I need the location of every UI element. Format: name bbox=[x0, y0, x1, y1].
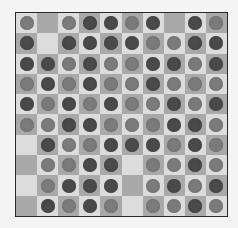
medium-piece[interactable] bbox=[167, 36, 181, 50]
board-cell[interactable] bbox=[58, 196, 79, 216]
dark-piece[interactable] bbox=[62, 118, 76, 132]
board-cell[interactable] bbox=[122, 33, 143, 53]
board-cell[interactable] bbox=[100, 114, 121, 134]
board-cell[interactable] bbox=[206, 135, 227, 155]
medium-piece[interactable] bbox=[125, 57, 139, 71]
board-cell[interactable] bbox=[164, 54, 185, 74]
board-cell[interactable] bbox=[143, 135, 164, 155]
medium-piece[interactable] bbox=[62, 77, 76, 91]
board-cell[interactable] bbox=[37, 74, 58, 94]
board-cell[interactable] bbox=[143, 54, 164, 74]
medium-piece[interactable] bbox=[41, 97, 55, 111]
board-cell[interactable] bbox=[100, 74, 121, 94]
dark-piece[interactable] bbox=[104, 158, 118, 172]
board-cell[interactable] bbox=[122, 94, 143, 114]
dark-piece[interactable] bbox=[83, 57, 97, 71]
dark-piece[interactable] bbox=[83, 158, 97, 172]
dark-piece[interactable] bbox=[167, 179, 181, 193]
medium-piece[interactable] bbox=[209, 138, 223, 152]
board-cell[interactable] bbox=[16, 175, 37, 195]
medium-piece[interactable] bbox=[146, 158, 160, 172]
board-cell[interactable] bbox=[122, 54, 143, 74]
board-cell[interactable] bbox=[16, 94, 37, 114]
dark-piece[interactable] bbox=[188, 138, 202, 152]
board-cell[interactable] bbox=[185, 135, 206, 155]
board-cell[interactable] bbox=[206, 196, 227, 216]
medium-piece[interactable] bbox=[167, 199, 181, 213]
board-cell[interactable] bbox=[58, 54, 79, 74]
board-cell[interactable] bbox=[164, 175, 185, 195]
board-cell[interactable] bbox=[58, 155, 79, 175]
board-cell[interactable] bbox=[185, 155, 206, 175]
board-cell[interactable] bbox=[16, 13, 37, 33]
medium-piece[interactable] bbox=[146, 118, 160, 132]
board-cell[interactable] bbox=[122, 155, 143, 175]
dark-piece[interactable] bbox=[83, 118, 97, 132]
medium-piece[interactable] bbox=[62, 199, 76, 213]
board-cell[interactable] bbox=[164, 155, 185, 175]
board-cell[interactable] bbox=[164, 94, 185, 114]
board-cell[interactable] bbox=[79, 135, 100, 155]
medium-piece[interactable] bbox=[104, 118, 118, 132]
board-cell[interactable] bbox=[164, 74, 185, 94]
board-cell[interactable] bbox=[143, 114, 164, 134]
board-cell[interactable] bbox=[206, 54, 227, 74]
medium-piece[interactable] bbox=[62, 57, 76, 71]
board-cell[interactable] bbox=[79, 196, 100, 216]
board-cell[interactable] bbox=[58, 135, 79, 155]
medium-piece[interactable] bbox=[209, 199, 223, 213]
medium-piece[interactable] bbox=[167, 158, 181, 172]
board-cell[interactable] bbox=[79, 33, 100, 53]
dark-piece[interactable] bbox=[62, 97, 76, 111]
board-cell[interactable] bbox=[143, 175, 164, 195]
medium-piece[interactable] bbox=[83, 138, 97, 152]
medium-piece[interactable] bbox=[188, 57, 202, 71]
dark-piece[interactable] bbox=[83, 16, 97, 30]
board-cell[interactable] bbox=[206, 155, 227, 175]
board-cell[interactable] bbox=[16, 196, 37, 216]
dark-piece[interactable] bbox=[104, 138, 118, 152]
board-cell[interactable] bbox=[185, 74, 206, 94]
board-cell[interactable] bbox=[122, 13, 143, 33]
medium-piece[interactable] bbox=[209, 77, 223, 91]
board-cell[interactable] bbox=[79, 114, 100, 134]
board-cell[interactable] bbox=[79, 74, 100, 94]
board-cell[interactable] bbox=[100, 94, 121, 114]
dark-piece[interactable] bbox=[146, 16, 160, 30]
dark-piece[interactable] bbox=[83, 199, 97, 213]
medium-piece[interactable] bbox=[20, 16, 34, 30]
board-cell[interactable] bbox=[143, 33, 164, 53]
dark-piece[interactable] bbox=[125, 36, 139, 50]
dark-piece[interactable] bbox=[209, 36, 223, 50]
dark-piece[interactable] bbox=[188, 118, 202, 132]
dark-piece[interactable] bbox=[83, 36, 97, 50]
board-cell[interactable] bbox=[16, 114, 37, 134]
board-cell[interactable] bbox=[143, 13, 164, 33]
board-cell[interactable] bbox=[164, 13, 185, 33]
board-cell[interactable] bbox=[58, 33, 79, 53]
board-cell[interactable] bbox=[122, 175, 143, 195]
medium-piece[interactable] bbox=[209, 16, 223, 30]
board-cell[interactable] bbox=[58, 13, 79, 33]
board-cell[interactable] bbox=[122, 135, 143, 155]
dark-piece[interactable] bbox=[167, 57, 181, 71]
board-cell[interactable] bbox=[185, 54, 206, 74]
dark-piece[interactable] bbox=[83, 179, 97, 193]
board-cell[interactable] bbox=[79, 54, 100, 74]
board-cell[interactable] bbox=[37, 54, 58, 74]
board-cell[interactable] bbox=[206, 13, 227, 33]
dark-piece[interactable] bbox=[188, 16, 202, 30]
medium-piece[interactable] bbox=[146, 97, 160, 111]
medium-piece[interactable] bbox=[188, 77, 202, 91]
board-cell[interactable] bbox=[37, 94, 58, 114]
board-cell[interactable] bbox=[164, 33, 185, 53]
medium-piece[interactable] bbox=[104, 57, 118, 71]
board-cell[interactable] bbox=[58, 94, 79, 114]
board-cell[interactable] bbox=[37, 135, 58, 155]
board-cell[interactable] bbox=[164, 135, 185, 155]
medium-piece[interactable] bbox=[125, 97, 139, 111]
board-cell[interactable] bbox=[143, 74, 164, 94]
dark-piece[interactable] bbox=[20, 36, 34, 50]
dark-piece[interactable] bbox=[20, 97, 34, 111]
medium-piece[interactable] bbox=[188, 97, 202, 111]
